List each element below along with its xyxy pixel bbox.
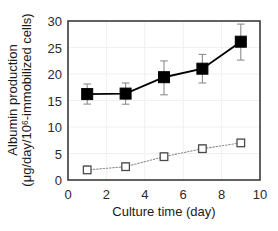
albumin-production-line-chart: 30 25 20 15 10 5 0 0 2 4 6 8 10 Culture …: [0, 0, 278, 231]
x-tick-label: 0: [64, 187, 71, 202]
y-axis-title-suffix: -immobilized cells): [19, 13, 34, 120]
y-tick-label: 5: [55, 147, 62, 162]
data-point-marker: [122, 163, 130, 171]
y-tick-label: 30: [48, 14, 62, 29]
x-tick-label: 4: [141, 187, 148, 202]
y-tick-label: 10: [48, 120, 62, 135]
data-point-marker: [120, 88, 131, 99]
y-tick-label: 25: [48, 41, 62, 56]
data-point-marker: [160, 153, 168, 161]
data-point-marker: [199, 145, 207, 153]
data-point-marker: [83, 166, 91, 174]
chart-figure: 30 25 20 15 10 5 0 0 2 4 6 8 10 Culture …: [0, 0, 278, 231]
y-axis-title-line1: Albumin production: [5, 44, 20, 155]
x-tick-label: 10: [253, 187, 267, 202]
y-axis-title-line2: (μg/day/106-immobilized cells): [19, 13, 34, 186]
chart-background: [0, 0, 278, 231]
x-axis-title: Culture time (day): [112, 204, 215, 219]
y-tick-label: 15: [48, 94, 62, 109]
x-tick-label: 2: [103, 187, 110, 202]
x-tick-label: 6: [180, 187, 187, 202]
y-tick-label: 20: [48, 67, 62, 82]
data-point-marker: [197, 63, 208, 74]
data-point-marker: [237, 139, 245, 147]
x-tick-label: 8: [218, 187, 225, 202]
y-tick-label: 0: [55, 173, 62, 188]
data-point-marker: [235, 36, 246, 47]
y-axis-title-prefix: (μg/day/10: [19, 125, 34, 187]
data-point-marker: [82, 89, 93, 100]
data-point-marker: [159, 72, 170, 83]
